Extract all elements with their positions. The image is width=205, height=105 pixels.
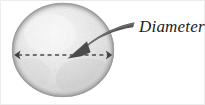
diameter-figure: Diameter: [0, 0, 205, 105]
diameter-label: Diameter: [139, 17, 205, 37]
sphere-group: [10, 0, 118, 105]
diagram-canvas: [0, 0, 205, 105]
